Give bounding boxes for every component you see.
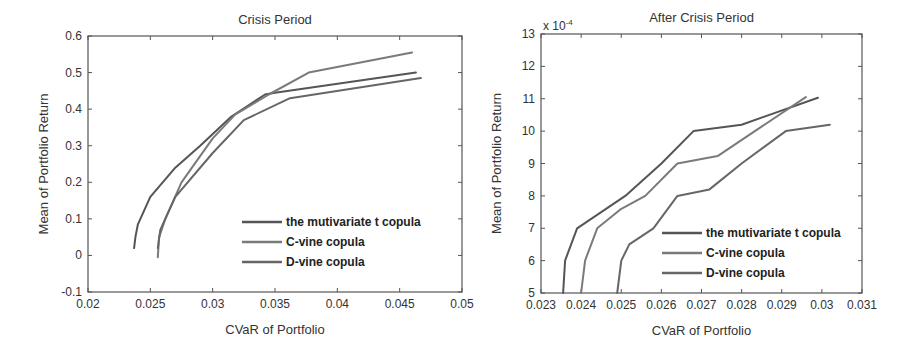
y-tick-label: 7 [528,221,535,235]
x-tick-label: 0.03 [810,298,834,312]
x-tick-label: 0.03 [201,297,225,311]
y-tick-label: 5 [528,286,535,300]
y-tick-label: 10 [522,124,536,138]
x-tick-label: 0.04 [326,297,350,311]
legend: the mutivariate t copulaC-vine copulaD-v… [662,226,841,280]
y-tick-label: 9 [528,157,535,171]
after-crisis-period-chart: 0.0230.0240.0250.0260.0270.0280.0290.030… [489,10,877,338]
y-tick-label: 0.4 [65,102,82,116]
x-tick-label: 0.025 [135,297,165,311]
x-axis-label: CVaR of Portfolio [225,322,324,337]
y-tick-label: 0.2 [65,175,82,189]
y-tick-label: 0.6 [65,29,82,43]
chart-title: Crisis Period [238,12,312,27]
y-tick-label: 8 [528,189,535,203]
x-tick-label: 0.045 [385,297,415,311]
x-tick-label: 0.027 [686,298,716,312]
y-axis-label: Mean of Portfolio Return [36,94,51,235]
x-tick-label: 0.02 [76,297,100,311]
legend-label: the mutivariate t copula [706,226,841,240]
legend-label: C-vine copula [286,235,365,249]
x-tick-label: 0.025 [606,298,636,312]
crisis-period-chart: 0.020.0250.030.0350.040.0450.05-0.100.10… [36,12,474,337]
x-tick-label: 0.05 [450,297,474,311]
x-tick-label: 0.028 [727,298,757,312]
chart-title: After Crisis Period [649,10,754,25]
legend-label: C-vine copula [706,246,785,260]
y-tick-label: 0.1 [65,212,82,226]
y-tick-label: 0.3 [65,139,82,153]
legend-label: the mutivariate t copula [286,215,421,229]
y-tick-label: 12 [522,59,536,73]
x-tick-label: 0.031 [847,298,877,312]
y-tick-label: 6 [528,254,535,268]
y-tick-label: -0.1 [61,285,82,299]
chart-figure: 0.020.0250.030.0350.040.0450.05-0.100.10… [0,0,900,356]
series-line-1 [563,98,818,293]
x-tick-label: 0.023 [526,298,556,312]
legend-label: D-vine copula [706,266,785,280]
y-axis-label: Mean of Portfolio Return [489,93,504,234]
y-tick-label: 0 [75,248,82,262]
x-axis-label: CVaR of Portfolio [652,323,751,338]
x-tick-label: 0.024 [566,298,596,312]
y-tick-label: 13 [522,27,536,41]
y-multiplier: x 10-4 [543,18,573,33]
legend-label: D-vine copula [286,255,365,269]
x-tick-label: 0.029 [767,298,797,312]
x-tick-label: 0.026 [646,298,676,312]
legend: the mutivariate t copulaC-vine copulaD-v… [242,215,421,269]
y-tick-label: 0.5 [65,66,82,80]
x-tick-label: 0.035 [260,297,290,311]
y-tick-label: 11 [523,92,536,106]
series-line-2 [581,97,806,293]
